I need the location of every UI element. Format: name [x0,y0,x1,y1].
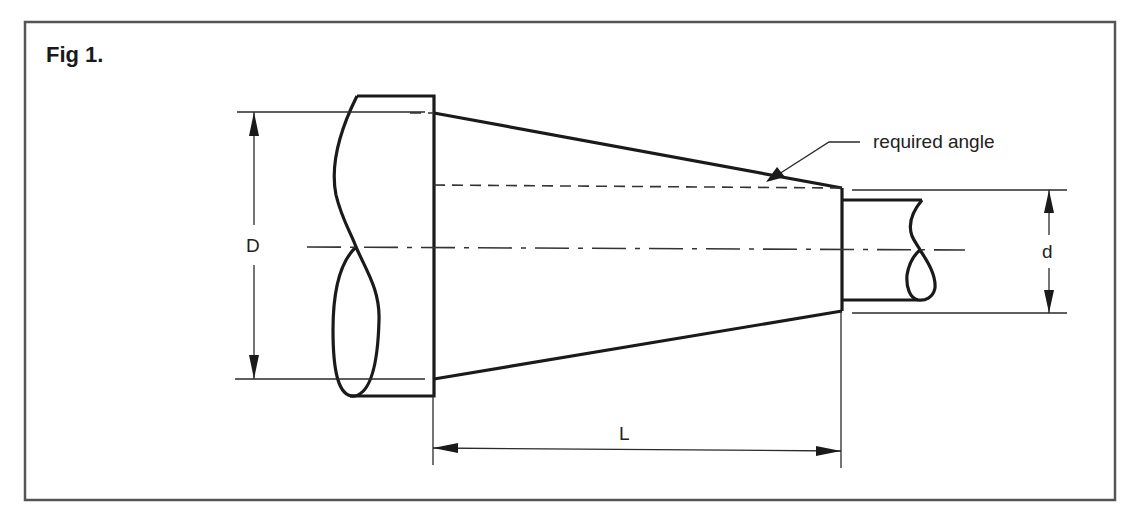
label-L: L [619,423,630,444]
label-d: d [1042,241,1053,262]
label-D: D [246,235,260,256]
L-arrow-left-icon [433,443,458,453]
D-arrow-up-icon [249,112,259,136]
dimension-L: L [433,311,841,468]
d-arrow-down-icon [1044,290,1054,313]
figure-frame [25,22,1115,500]
label-required-angle: required angle [873,131,994,152]
D-arrow-down-icon [249,355,259,379]
L-arrow-right-icon [816,446,841,456]
d-arrow-up-icon [1044,190,1054,213]
figure-title: Fig 1. [46,42,103,67]
centerline [307,247,965,250]
angle-reference-line [434,185,842,188]
cone-bottom-edge [434,311,842,379]
large-shaft-break-line [333,96,379,396]
taper-cone [434,113,842,379]
dimension-D: D [235,112,425,379]
angle-leader-line [779,142,860,174]
dimension-d: d [852,190,1067,313]
L-dimension-line [433,448,841,451]
large-shaft-outline [350,96,434,396]
fig1-taper-diagram: Fig 1. D d [0,0,1135,516]
angle-callout: required angle [766,131,994,182]
large-shaft [333,96,434,396]
